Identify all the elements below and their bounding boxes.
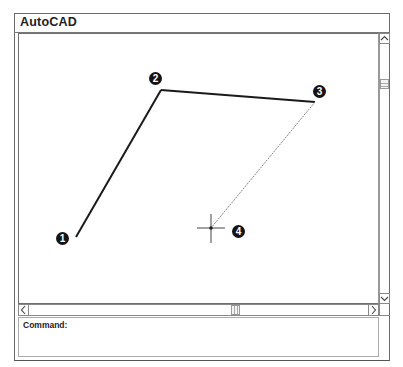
scrollbar-corner	[379, 304, 390, 316]
point-marker-1: 1	[56, 232, 69, 245]
line-segment-2-3[interactable]	[161, 90, 315, 102]
scroll-right-button[interactable]	[368, 304, 379, 316]
command-line-area[interactable]	[18, 317, 379, 357]
chevron-down-icon	[380, 294, 389, 303]
chevron-left-icon	[19, 305, 28, 315]
vertical-scroll-thumb[interactable]	[380, 79, 389, 89]
crosshair-cursor-icon	[197, 214, 225, 243]
horizontal-scroll-thumb[interactable]	[231, 305, 240, 315]
rubberband-line-3-4	[211, 102, 315, 228]
chevron-right-icon	[369, 305, 378, 315]
point-marker-3: 3	[313, 85, 326, 98]
point-marker-4: 4	[232, 225, 245, 238]
command-prompt-label: Command:	[23, 320, 67, 330]
chevron-up-icon	[380, 34, 389, 43]
line-segment-1-2[interactable]	[76, 90, 161, 237]
scroll-up-button[interactable]	[379, 33, 390, 44]
horizontal-scrollbar[interactable]	[18, 304, 380, 316]
scroll-down-button[interactable]	[379, 293, 390, 304]
vertical-scrollbar[interactable]	[379, 33, 390, 304]
point-marker-2: 2	[149, 72, 162, 85]
scroll-left-button[interactable]	[18, 304, 29, 316]
